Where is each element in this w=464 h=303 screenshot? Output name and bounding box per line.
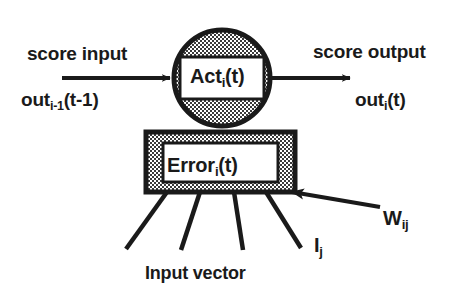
out-current-tail: (t) xyxy=(387,89,405,110)
diagram-canvas: score input outi-1(t-1) score output out… xyxy=(0,0,464,303)
out-previous-base: out xyxy=(21,89,50,110)
error-label: Errori(t) xyxy=(167,155,238,175)
input-line-2 xyxy=(181,192,200,250)
input-line-4 xyxy=(266,192,301,248)
score-input-label: score input xyxy=(27,44,127,63)
out-previous-label: outi-1(t-1) xyxy=(21,90,99,109)
activation-base: Act xyxy=(190,65,222,87)
input-line-1 xyxy=(126,192,167,249)
weight-base: W xyxy=(383,207,402,229)
input-component-sub: j xyxy=(319,244,322,259)
out-previous-tail: (t-1) xyxy=(64,89,99,110)
weight-sub: ij xyxy=(402,217,409,232)
weight-callout-arrow xyxy=(292,192,380,207)
out-previous-sub: i-1 xyxy=(50,99,64,113)
error-sub: i xyxy=(215,164,218,179)
activation-sub: i xyxy=(222,75,225,90)
input-line-3 xyxy=(234,192,243,250)
out-current-sub: i xyxy=(384,99,387,113)
input-vector-lines xyxy=(126,192,301,250)
activation-label: Acti(t) xyxy=(190,66,244,86)
error-tail: (t) xyxy=(218,154,237,176)
out-current-base: out xyxy=(355,89,384,110)
error-base: Error xyxy=(167,154,215,176)
weight-label: Wij xyxy=(383,208,408,228)
input-vector-label: Input vector xyxy=(145,264,246,282)
out-current-label: outi(t) xyxy=(355,90,406,109)
activation-tail: (t) xyxy=(225,65,244,87)
input-component-label: Ij xyxy=(314,235,323,255)
score-output-label: score output xyxy=(313,42,426,61)
